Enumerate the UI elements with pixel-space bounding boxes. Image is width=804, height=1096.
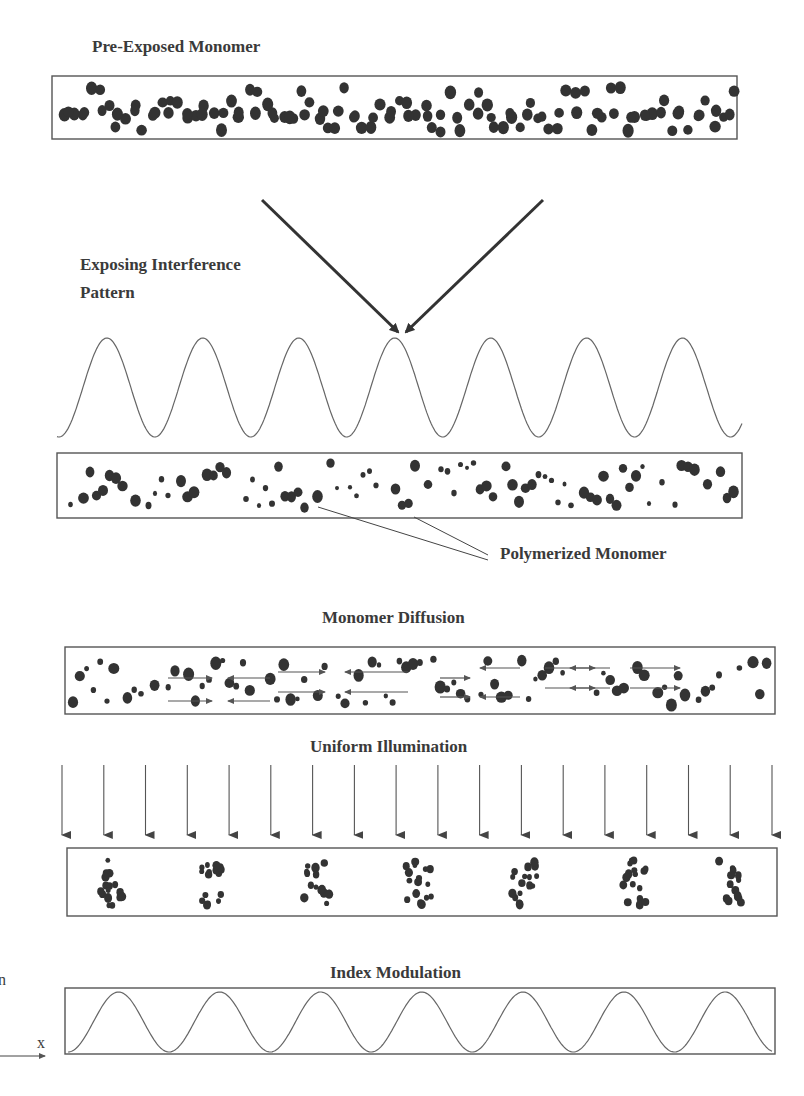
monomer-dot: [711, 105, 721, 117]
stage2-title-line1: Exposing Interference: [80, 255, 241, 274]
polymer-dot: [592, 495, 602, 506]
diffusing-dot: [408, 658, 418, 670]
monomer-dot: [268, 107, 278, 119]
polymer-dot: [619, 464, 627, 473]
polymer-cluster-dot: [526, 881, 533, 889]
polymer-dot: [728, 485, 739, 498]
diffusing-dot: [295, 697, 300, 702]
polymer-cluster-dot: [734, 891, 742, 900]
polymer-dot: [502, 462, 511, 472]
diffusing-dot: [390, 699, 396, 705]
diffusing-dot: [104, 698, 109, 703]
polymer-cluster-dot: [308, 882, 314, 890]
polymer-dot: [159, 476, 164, 483]
monomer-dot: [522, 109, 533, 121]
polymer-cluster-dot: [425, 882, 430, 887]
monomer-dot: [640, 109, 650, 120]
polymer-dot: [445, 468, 451, 475]
diffusing-dot: [397, 658, 403, 665]
polymer-dot: [209, 471, 218, 481]
monomer-dot: [482, 98, 493, 111]
polymer-dot: [451, 490, 456, 497]
diffusing-dot: [762, 658, 772, 669]
diffusing-dot: [108, 663, 119, 674]
diffusing-dot: [368, 657, 377, 668]
polymer-dot: [458, 462, 463, 467]
diffusing-dot: [709, 684, 715, 690]
monomer-dot: [464, 99, 475, 111]
callout-polymerized-monomer: Polymerized Monomer: [500, 544, 667, 563]
diffusing-dot: [322, 663, 328, 670]
diffusing-dot: [478, 692, 483, 697]
monomer-dot: [252, 87, 262, 97]
polymer-dot: [631, 470, 641, 482]
polymer-dot: [465, 466, 469, 470]
polymer-cluster-dot: [643, 866, 649, 873]
polymer-cluster-dot: [321, 859, 328, 867]
polymer-cluster-dot: [428, 893, 433, 899]
diffusing-dot: [170, 665, 179, 676]
monomer-dot: [333, 106, 344, 117]
polymer-cluster-dot: [218, 891, 224, 898]
polymer-cluster-dot: [205, 862, 210, 868]
callout-leader-line-2: [414, 517, 488, 555]
polymer-dot: [354, 493, 359, 498]
monomer-dot: [226, 95, 237, 108]
monomer-dot: [403, 110, 413, 122]
monomer-dot: [350, 110, 360, 122]
polymer-cluster-dot: [101, 873, 109, 882]
diffusing-dot: [483, 656, 492, 665]
monomer-dot: [526, 98, 535, 108]
polymer-cluster-dot: [105, 858, 110, 863]
polymer-cluster-dot: [407, 878, 413, 884]
monomer-dot: [473, 108, 484, 120]
monomer-dot: [554, 108, 564, 118]
diffusing-dot: [639, 670, 650, 682]
polymer-dot: [543, 474, 548, 479]
diffusing-dot: [533, 676, 537, 681]
polymer-dot: [130, 494, 141, 506]
polymer-cluster-dot: [305, 863, 310, 869]
diffusing-dot: [75, 671, 85, 681]
diffusing-dot: [619, 683, 629, 694]
diffusing-dot: [220, 658, 225, 663]
polymer-dot: [263, 485, 268, 491]
diffusing-dot: [97, 659, 103, 665]
polymer-cluster-dot: [199, 898, 205, 904]
polymer-dot: [189, 486, 200, 498]
polymer-cluster-dot: [427, 865, 434, 873]
monomer-dot: [284, 110, 295, 124]
monomer-dot: [560, 84, 571, 96]
diffusing-dot: [340, 699, 349, 709]
polymer-dot: [438, 466, 443, 472]
polymer-dot: [294, 488, 303, 497]
polymer-dot: [527, 479, 536, 490]
diffusing-dot: [666, 698, 677, 711]
monomer-dot: [580, 85, 590, 96]
polymer-dot: [117, 481, 127, 491]
polymer-cluster-dot: [404, 896, 410, 903]
diffusing-dot: [377, 662, 381, 667]
polymer-cluster-dot: [119, 892, 127, 901]
monomer-dot: [474, 87, 483, 98]
polymer-cluster-dot: [216, 898, 221, 904]
monomer-dot: [149, 107, 160, 119]
monomer-dot: [218, 108, 228, 118]
diffusing-dot: [444, 686, 450, 693]
callout-leader-line-1: [318, 507, 488, 560]
diffusing-dot: [526, 696, 531, 702]
diffusing-dot: [123, 692, 133, 704]
monomer-dot: [330, 122, 341, 134]
diffusing-dot: [200, 683, 205, 689]
monomer-dot: [95, 85, 105, 96]
diffusing-dot: [652, 687, 663, 698]
diffusing-dot: [150, 680, 160, 691]
diffusing-dot: [662, 685, 667, 690]
polymer-cluster-dot: [624, 898, 632, 906]
monomer-dot: [216, 123, 227, 137]
polymer-dot: [647, 501, 651, 506]
polymer-cluster-dot: [728, 882, 733, 888]
polymer-cluster-dot: [300, 893, 308, 902]
polymer-cluster-dot: [518, 879, 525, 887]
diffusing-dot: [265, 673, 276, 685]
